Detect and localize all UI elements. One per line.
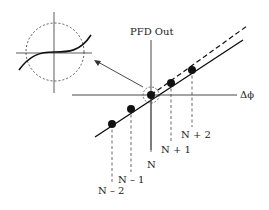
point-label-n-minus-2: N – 2 [98,186,124,196]
point-label-n-plus-1: N + 1 [161,145,191,155]
point-label-n-minus-1: N – 1 [118,175,144,185]
inset-zoom [16,12,92,93]
point-label-n-plus-2: N + 2 [181,130,211,140]
y-axis-label: PFD Out [130,27,174,37]
point-label-n: N [147,160,156,170]
actual-line [95,40,243,137]
x-axis-label: Δϕ [240,90,254,100]
zoom-arrow [94,60,143,87]
